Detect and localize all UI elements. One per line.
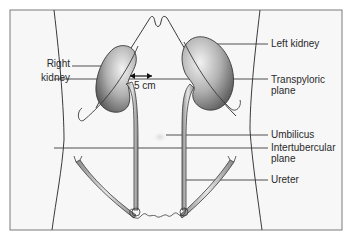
right-kidney-label-line1: Right <box>30 58 70 69</box>
kidney-diagram: Right kidney 5 cm Left kidney Transpylor… <box>0 0 348 236</box>
intertubercular-plane-label-line2: plane <box>271 153 295 164</box>
umbilicus-mark <box>152 131 168 143</box>
diagram-canvas <box>0 0 348 236</box>
left-kidney-label: Left kidney <box>271 38 319 49</box>
distance-label: 5 cm <box>134 80 156 91</box>
transpyloric-plane-label-line2: plane <box>271 85 295 96</box>
transpyloric-plane-label-line1: Transpyloric <box>271 74 325 85</box>
intertubercular-plane-label-line1: Intertubercular <box>271 142 335 153</box>
umbilicus-label: Umbilicus <box>271 129 314 140</box>
right-kidney-label-line2: kidney <box>20 72 70 83</box>
ureter-label: Ureter <box>271 174 299 185</box>
